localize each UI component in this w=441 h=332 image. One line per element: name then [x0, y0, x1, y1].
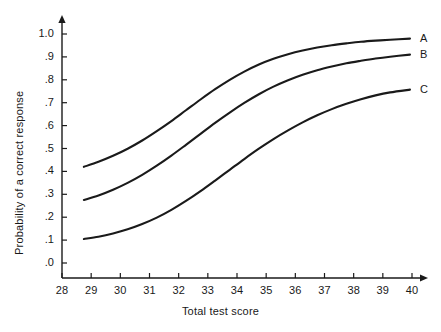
chart-container: .0.1.2.3.4.5.6.7.8.91.0 2829303132333435…	[0, 0, 441, 332]
y-tick-label: .5	[20, 143, 54, 154]
x-tick-label: 38	[341, 285, 367, 296]
data-curves	[84, 39, 410, 239]
y-tick-label: .3	[20, 188, 54, 199]
chart-plot-area	[0, 0, 441, 332]
x-tick-label: 31	[137, 285, 163, 296]
x-tick-label: 29	[78, 285, 104, 296]
x-tick-label: 35	[253, 285, 279, 296]
axes	[58, 15, 428, 282]
x-tick-label: 32	[166, 285, 192, 296]
x-tick-label: 37	[312, 285, 338, 296]
x-axis-title: Total test score	[0, 305, 441, 317]
x-tick-label: 30	[107, 285, 133, 296]
x-tick-label: 36	[282, 285, 308, 296]
y-tick-label: .6	[20, 120, 54, 131]
x-tick-label: 39	[370, 285, 396, 296]
x-tick-label: 40	[399, 285, 425, 296]
y-tick-label: .9	[20, 51, 54, 62]
curve-label-a: A	[420, 33, 427, 44]
y-tick-label: .8	[20, 74, 54, 85]
y-tick-label: .0	[20, 257, 54, 268]
curve-label-c: C	[420, 84, 428, 95]
y-tick-label: 1.0	[20, 28, 54, 39]
y-tick-label: .7	[20, 97, 54, 108]
curve-label-b: B	[420, 49, 427, 60]
x-tick-label: 33	[195, 285, 221, 296]
y-axis-title: Probability of a correct response	[13, 91, 25, 255]
y-tick-label: .1	[20, 234, 54, 245]
x-tick-label: 28	[49, 285, 75, 296]
y-tick-label: .4	[20, 165, 54, 176]
x-tick-label: 34	[224, 285, 250, 296]
y-tick-label: .2	[20, 211, 54, 222]
